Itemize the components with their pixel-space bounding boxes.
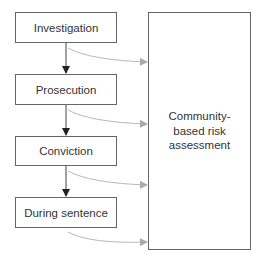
stage-prosecution: Prosecution: [15, 74, 117, 105]
stage-during-sentence: During sentence: [15, 197, 117, 228]
stage-label: Investigation: [34, 22, 99, 34]
risk-assessment-box: Community-based risk assessment: [148, 12, 251, 250]
stage-label: During sentence: [24, 207, 108, 219]
stage-label: Conviction: [39, 145, 93, 157]
target-label: Community-based risk assessment: [163, 109, 236, 152]
stage-label: Prosecution: [36, 84, 97, 96]
stage-investigation: Investigation: [15, 12, 117, 43]
stage-conviction: Conviction: [15, 136, 117, 166]
